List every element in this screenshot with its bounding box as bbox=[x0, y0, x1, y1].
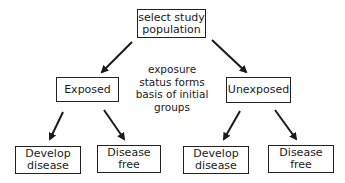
group-label: Exposed bbox=[64, 84, 111, 96]
arrow-exposed-to-develop bbox=[50, 112, 63, 139]
group-label: Unexposed bbox=[228, 84, 289, 96]
note-line2: status forms bbox=[122, 76, 222, 89]
outcome-line2: free bbox=[279, 159, 322, 171]
outcome-node-exposed-disease-free: Disease free bbox=[97, 145, 161, 173]
outcome-line2: free bbox=[107, 159, 150, 171]
note-line3: basis of initial bbox=[122, 88, 222, 101]
outcome-line2: disease bbox=[193, 160, 238, 172]
root-label-line1: select study bbox=[138, 12, 205, 24]
arrow-unexposed-to-free bbox=[275, 110, 296, 139]
outcome-node-unexposed-disease-free: Disease free bbox=[268, 145, 334, 173]
note-line4: groups bbox=[122, 101, 222, 114]
group-node-exposed: Exposed bbox=[56, 77, 119, 102]
note-line1: exposure bbox=[122, 63, 222, 76]
root-label-line2: population bbox=[138, 24, 205, 36]
exposure-note: exposure status forms basis of initial g… bbox=[122, 63, 222, 113]
group-node-unexposed: Unexposed bbox=[226, 77, 291, 103]
root-node-select-study-population: select study population bbox=[137, 9, 206, 38]
arrow-unexposed-to-develop bbox=[224, 111, 240, 139]
outcome-node-unexposed-develop-disease: Develop disease bbox=[183, 146, 249, 174]
arrow-exposed-to-free bbox=[104, 110, 124, 139]
outcome-line2: disease bbox=[25, 160, 70, 172]
outcome-node-exposed-develop-disease: Develop disease bbox=[15, 146, 81, 174]
